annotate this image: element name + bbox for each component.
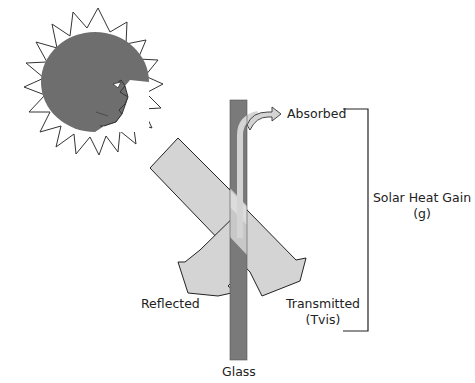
label-solar-heat-gain-line2: (g) (372, 206, 472, 222)
sun-face-icon (24, 8, 163, 155)
solar-beam (150, 138, 306, 296)
label-solar-heat-gain: Solar Heat Gain (g) (372, 190, 472, 222)
label-transmitted-line2: (Tvis) (285, 312, 361, 328)
label-solar-heat-gain-line1: Solar Heat Gain (372, 190, 472, 206)
label-absorbed: Absorbed (287, 106, 346, 122)
label-transmitted-line1: Transmitted (285, 296, 361, 312)
label-transmitted: Transmitted (Tvis) (285, 296, 361, 328)
label-glass: Glass (222, 364, 256, 380)
label-reflected: Reflected (141, 296, 200, 312)
